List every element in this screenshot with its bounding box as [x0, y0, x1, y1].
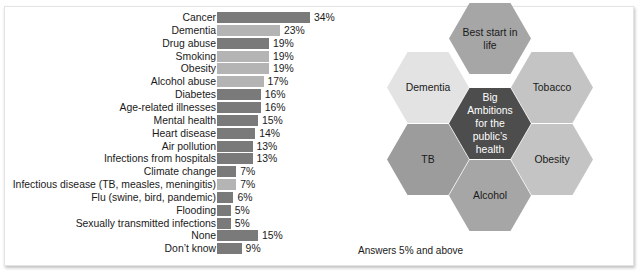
- hex-top-label: Best start in life: [460, 26, 520, 52]
- hex-lower-right-label: Obesity: [522, 153, 582, 166]
- hex-upper-left-label: Dementia: [398, 81, 458, 94]
- hex-bottom-label: Alcohol: [460, 189, 520, 202]
- hex-upper-right-label: Tobacco: [522, 81, 582, 94]
- hex-top: Best start in life: [449, 3, 531, 74]
- hex-center-label: Big Ambitions for the public’s health: [460, 91, 520, 156]
- hex-lower-left-label: TB: [398, 153, 458, 166]
- hexagon-diagram: Best start in life Dementia Tobacco Big …: [0, 0, 640, 276]
- footnote: Answers 5% and above: [358, 245, 463, 256]
